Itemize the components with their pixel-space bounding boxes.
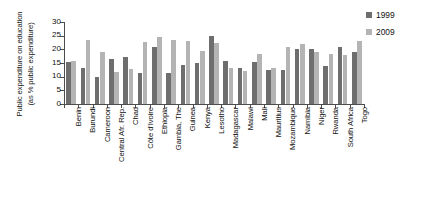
x-category-label: Namibia xyxy=(303,79,312,107)
legend-swatch-2009 xyxy=(366,29,372,35)
x-category-label: Burundi xyxy=(88,81,97,107)
x-category-label: Malawi xyxy=(246,84,255,107)
x-category-label: Chad xyxy=(131,89,140,107)
legend: 1999 2009 xyxy=(366,9,428,43)
x-category-label: Rwanda xyxy=(331,79,340,107)
x-category-label: Lesotho xyxy=(217,80,226,107)
y-tick-label: 30 xyxy=(43,17,61,27)
y-tick-label: 5 xyxy=(43,85,61,95)
y-axis-title-line-2: (as % public expenditure) xyxy=(26,0,37,139)
y-tick-label: 20 xyxy=(43,44,61,54)
y-tick-label: 15 xyxy=(43,58,61,68)
x-category-label: Guinea xyxy=(188,83,197,107)
x-category-label: Mali xyxy=(260,93,269,107)
x-category-label: Niger xyxy=(317,89,326,107)
x-category-label: Madagascar xyxy=(231,66,240,107)
bar-1999 xyxy=(66,62,71,104)
legend-label-1999: 1999 xyxy=(376,10,395,20)
y-axis-title: Public expenditure on education (as % pu… xyxy=(15,0,43,139)
y-axis-title-line-1: Public expenditure on education xyxy=(15,0,26,139)
x-category-label: Côte d'Ivoire xyxy=(146,65,155,107)
x-axis-category-labels: BeninBurundiCameroonCentral Afr. Rep.Cha… xyxy=(64,104,364,216)
legend-label-2009: 2009 xyxy=(376,27,395,37)
y-tick-label: 0 xyxy=(43,99,61,109)
x-category-label: Kenya xyxy=(203,86,212,107)
x-category-label: Gambia, The xyxy=(174,64,183,107)
x-category-label: Togo xyxy=(360,91,369,107)
legend-item-1999: 1999 xyxy=(366,9,395,21)
y-tick-label: 25 xyxy=(43,30,61,40)
y-axis-line xyxy=(64,22,65,104)
x-category-label: Benin xyxy=(74,88,83,107)
y-tick-label: 10 xyxy=(43,71,61,81)
x-category-label: Central Afr. Rep. xyxy=(117,52,126,107)
x-category-label: Mauritius xyxy=(274,77,283,107)
x-category-label: Ethiopia xyxy=(160,80,169,107)
x-category-label: Mozambique xyxy=(288,64,297,107)
legend-item-2009: 2009 xyxy=(366,26,395,38)
bar-chart: Public expenditure on education (as % pu… xyxy=(0,0,432,219)
legend-swatch-1999 xyxy=(366,12,372,18)
x-category-label: South Africa xyxy=(346,67,355,107)
x-category-label: Cameroon xyxy=(103,72,112,107)
